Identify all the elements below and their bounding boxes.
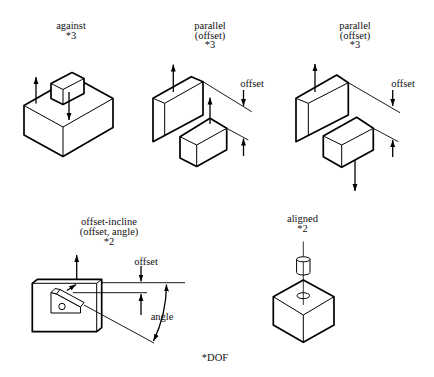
pin bbox=[297, 257, 310, 275]
panel-title: against bbox=[56, 20, 86, 31]
offset-label: offset bbox=[240, 78, 264, 89]
pin-top bbox=[297, 257, 310, 262]
offset-reference-line bbox=[373, 128, 398, 141]
panel-offset-incline: offset-incline (offset, angle) *2 offset… bbox=[32, 216, 185, 344]
dof-count: *2 bbox=[297, 223, 308, 234]
dof-count: *2 bbox=[104, 236, 115, 247]
dof-count: *3 bbox=[66, 30, 77, 41]
bracket-hole bbox=[59, 303, 65, 309]
assembly-constraints-diagram: against *3 parallel (offset) *3 bbox=[0, 0, 434, 377]
panel-aligned: aligned *2 bbox=[273, 213, 334, 343]
offset-label: offset bbox=[391, 78, 415, 89]
dof-count: *3 bbox=[205, 39, 216, 50]
panel-parallel-offset-up: parallel (offset) *3 offset bbox=[153, 20, 264, 167]
footnote-dof: *DOF bbox=[202, 352, 228, 363]
dof-count: *3 bbox=[350, 39, 361, 50]
angle-label: angle bbox=[151, 311, 174, 322]
block bbox=[180, 118, 227, 166]
block-outline bbox=[180, 118, 227, 166]
panel-against: against *3 bbox=[24, 20, 113, 157]
offset-reference-line bbox=[227, 128, 249, 140]
panel-parallel-offset-down: parallel (offset) *3 offset bbox=[296, 20, 415, 192]
offset-label: offset bbox=[134, 256, 158, 267]
